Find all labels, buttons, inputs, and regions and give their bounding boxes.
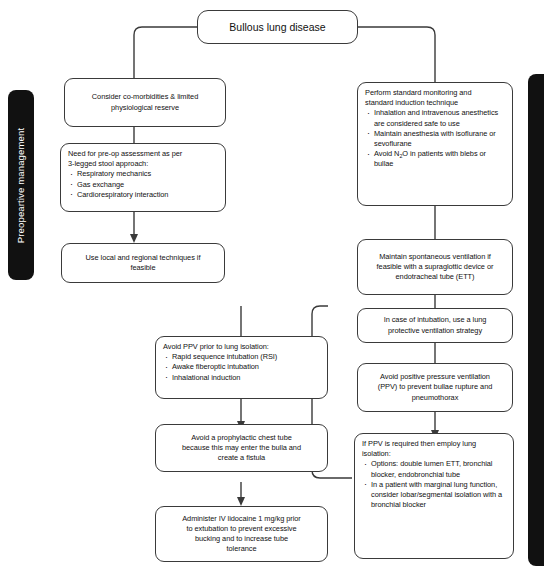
node-line: Consider co-morbidities & limited: [92, 92, 198, 102]
node-bullet: Awake fiberoptic intubation: [163, 362, 320, 372]
node-line: endotracheal tube (ETT): [396, 272, 475, 282]
node-bullet: In a patient with marginal lung function…: [362, 480, 506, 511]
node-line: create a fistula: [218, 453, 265, 463]
sidebar-preoperative-management: Preopeartive management: [8, 90, 34, 280]
sidebar-label: Preopeartive management: [16, 127, 27, 242]
node-avoid-ppv-prior-isolation: Avoid PPV prior to lung isolation: Rapid…: [155, 336, 328, 399]
node-lead-line: Perform standard monitoring and: [365, 88, 505, 98]
node-lead-line: isolation:: [362, 449, 506, 459]
node-line: Use local and regional techniques if: [86, 253, 201, 263]
node-avoid-ppv: Avoid positive pressure ventilation (PPV…: [357, 363, 513, 412]
node-bullet: Maintain anesthesia with isoflurane or s…: [365, 129, 505, 149]
node-line: feasible: [130, 263, 155, 273]
node-line: protective ventilation strategy: [388, 326, 482, 336]
node-ppv-lung-isolation: If PPV is required then employ lung isol…: [354, 433, 514, 559]
node-line: to extubation to prevent excessive: [186, 524, 296, 534]
node-bullet: Gas exchange: [68, 180, 218, 190]
node-bullet: Cardiorespiratory interaction: [68, 190, 218, 200]
n2o-subscript: 2: [399, 153, 402, 159]
node-bullet: Options: double lumen ETT, bronchial blo…: [362, 459, 506, 479]
sidebar-right-partial: [528, 74, 544, 566]
node-bullet-list: Respiratory mechanics Gas exchange Cardi…: [68, 169, 218, 200]
node-standard-monitoring-induction: Perform standard monitoring and standard…: [357, 82, 513, 206]
node-line: Administer IV lidocaine 1 mg/kg prior: [182, 514, 301, 524]
node-preop-assessment: Need for pre-op assessment as per 3-legg…: [60, 143, 226, 212]
diagram-title-node: Bullous lung disease: [197, 10, 358, 44]
node-line: Avoid a prophylactic chest tube: [191, 433, 292, 443]
node-line: (PPV) to prevent bullae rupture and: [378, 382, 493, 392]
node-line: In case of intubation, use a lung: [384, 315, 487, 325]
node-line: bucking and to increase tube: [195, 534, 288, 544]
diagram-title-text: Bullous lung disease: [229, 21, 325, 33]
n2o-pre: Avoid N: [374, 149, 399, 158]
node-administer-iv-lidocaine: Administer IV lidocaine 1 mg/kg prior to…: [155, 506, 328, 562]
node-spontaneous-ventilation: Maintain spontaneous ventilation if feas…: [357, 239, 513, 295]
node-bullet: Inhalational induction: [163, 373, 320, 383]
node-lead-line: Avoid PPV prior to lung isolation:: [163, 342, 320, 352]
node-line: physiological reserve: [111, 103, 179, 113]
node-line: because this may enter the bulla and: [182, 443, 301, 453]
node-bullet: Rapid sequence intubation (RSI): [163, 352, 320, 362]
node-bullet: Respiratory mechanics: [68, 169, 218, 179]
node-line: tolerance: [227, 544, 257, 554]
node-lead-line: Need for pre-op assessment as per: [68, 149, 218, 159]
node-lung-protective-strategy: In case of intubation, use a lung protec…: [357, 308, 513, 343]
node-line: Avoid positive pressure ventilation: [380, 372, 490, 382]
node-local-regional-techniques: Use local and regional techniques if fea…: [61, 243, 225, 283]
node-bullet: Inhalation and intravenous anesthetics a…: [365, 108, 505, 128]
arrowhead-left-3: [130, 234, 138, 243]
node-bullet-list: Rapid sequence intubation (RSI) Awake fi…: [163, 352, 320, 383]
node-bullet-n2o: Avoid N2O in patients with blebs or bull…: [365, 149, 505, 169]
node-lead-line: standard induction technique: [365, 98, 505, 108]
node-avoid-prophylactic-chest-tube: Avoid a prophylactic chest tube because …: [155, 424, 328, 472]
node-lead-line: 3-legged stool approach:: [68, 159, 218, 169]
node-bullet-list: Inhalation and intravenous anesthetics a…: [365, 108, 505, 169]
node-line: Maintain spontaneous ventilation if: [379, 252, 491, 262]
node-lead-line: If PPV is required then employ lung: [362, 439, 506, 449]
arrowhead-mid-3: [237, 497, 245, 506]
node-bullet-list: Options: double lumen ETT, bronchial blo…: [362, 459, 506, 510]
node-line: feasible with a supraglottic device or: [377, 262, 494, 272]
node-line: pneumothorax: [412, 393, 459, 403]
node-consider-comorbidities: Consider co-morbidities & limited physio…: [64, 78, 226, 127]
